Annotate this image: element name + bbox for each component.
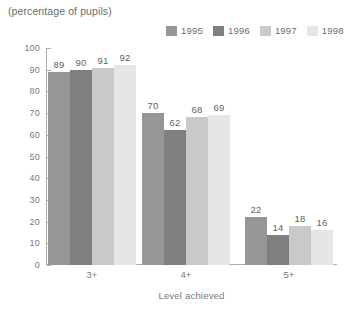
y-tick-label-50: 50 xyxy=(30,152,40,162)
x-tick-label-4plus: 4+ xyxy=(180,269,191,280)
bar-value-label: 14 xyxy=(273,222,284,233)
legend-label-1997: 1997 xyxy=(275,25,297,36)
legend-label-1995: 1995 xyxy=(181,25,203,36)
bar-value-label: 62 xyxy=(170,117,181,128)
x-tick-label-5plus: 5+ xyxy=(283,269,294,280)
bar-1995-4plus[interactable]: 70 xyxy=(142,113,164,265)
bar-value-label: 69 xyxy=(214,102,225,113)
bar-value-label: 91 xyxy=(98,55,109,66)
plot-area: 0102030405060708090100 899091923+7062686… xyxy=(46,48,337,265)
y-tick-label-10: 10 xyxy=(30,238,40,248)
legend-swatch-1997 xyxy=(260,26,271,36)
legend-swatch-1998 xyxy=(307,26,318,36)
bar-value-label: 92 xyxy=(120,52,131,63)
legend-label-1998: 1998 xyxy=(322,25,344,36)
y-tick-label-60: 60 xyxy=(30,130,40,140)
bar-groups: 899091923+706268694+221418165+ xyxy=(46,48,337,265)
bar-value-label: 16 xyxy=(317,217,328,228)
y-tick-mark-0 xyxy=(47,265,51,266)
bar-value-label: 18 xyxy=(295,213,306,224)
legend-item-1996[interactable]: 1996 xyxy=(213,25,250,36)
bar-1997-4plus[interactable]: 68 xyxy=(186,117,208,265)
bar-1996-5plus[interactable]: 14 xyxy=(267,235,289,265)
bar-1997-5plus[interactable]: 18 xyxy=(289,226,311,265)
y-tick-label-80: 80 xyxy=(30,86,40,96)
y-tick-label-30: 30 xyxy=(30,195,40,205)
y-tick-label-40: 40 xyxy=(30,173,40,183)
chart-legend: 1995199619971998 xyxy=(166,25,344,36)
bar-value-label: 89 xyxy=(54,59,65,70)
legend-item-1995[interactable]: 1995 xyxy=(166,25,203,36)
y-tick-label-70: 70 xyxy=(30,108,40,118)
bar-1995-5plus[interactable]: 22 xyxy=(245,217,267,265)
bar-group-3plus: 899091923+ xyxy=(48,48,136,265)
bar-1996-3plus[interactable]: 90 xyxy=(70,70,92,265)
legend-item-1998[interactable]: 1998 xyxy=(307,25,344,36)
bar-value-label: 22 xyxy=(251,204,262,215)
bar-value-label: 90 xyxy=(76,57,87,68)
bar-1996-4plus[interactable]: 62 xyxy=(164,130,186,265)
chart-subtitle: (percentage of pupils) xyxy=(8,5,112,17)
bar-group-4plus: 706268694+ xyxy=(142,48,230,265)
bar-value-label: 68 xyxy=(192,104,203,115)
legend-item-1997[interactable]: 1997 xyxy=(260,25,297,36)
bar-1997-3plus[interactable]: 91 xyxy=(92,68,114,265)
bar-value-label: 70 xyxy=(148,100,159,111)
bar-1998-4plus[interactable]: 69 xyxy=(208,115,230,265)
legend-label-1996: 1996 xyxy=(228,25,250,36)
bar-group-5plus: 221418165+ xyxy=(245,48,333,265)
x-tick-label-3plus: 3+ xyxy=(86,269,97,280)
x-axis-title: Level achieved xyxy=(46,290,337,301)
y-tick-label-90: 90 xyxy=(30,65,40,75)
bar-1995-3plus[interactable]: 89 xyxy=(48,72,70,265)
legend-swatch-1996 xyxy=(213,26,224,36)
bar-1998-5plus[interactable]: 16 xyxy=(311,230,333,265)
y-tick-label-100: 100 xyxy=(24,43,40,53)
bar-1998-3plus[interactable]: 92 xyxy=(114,65,136,265)
chart-figure: (cut off title) (percentage of pupils) 1… xyxy=(0,0,345,309)
y-tick-label-0: 0 xyxy=(35,260,40,270)
y-tick-label-20: 20 xyxy=(30,217,40,227)
legend-swatch-1995 xyxy=(166,26,177,36)
